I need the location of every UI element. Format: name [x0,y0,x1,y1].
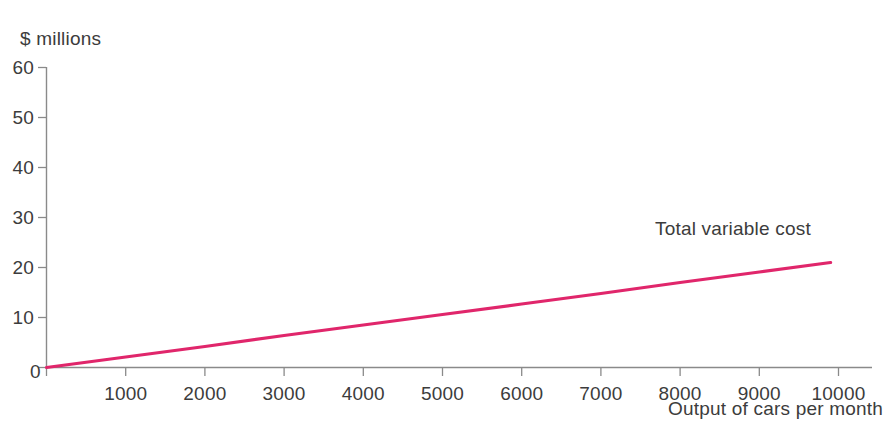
x-tick-label-1000: 1000 [86,383,166,405]
x-tick-label-7000: 7000 [561,383,641,405]
y-axis-ticks [38,68,46,368]
y-tick-label-30: 30 [0,207,34,229]
y-tick-label-40: 40 [0,157,34,179]
x-tick-label-5000: 5000 [403,383,483,405]
x-tick-label-2000: 2000 [165,383,245,405]
x-axis-ticks [47,367,839,376]
x-tick-label-3000: 3000 [244,383,324,405]
series-line-total-variable-cost [47,263,831,368]
x-axis-title: Output of cars per month [668,398,883,420]
series-annotation-total-variable-cost: Total variable cost [655,218,811,240]
y-tick-label-10: 10 [0,307,34,329]
y-tick-label-50: 50 [0,107,34,129]
x-tick-label-4000: 4000 [323,383,403,405]
x-tick-label-6000: 6000 [482,383,562,405]
origin-tick-label-0: 0 [30,361,41,383]
chart-container: $ millions [0,0,893,435]
y-tick-label-60: 60 [0,57,34,79]
y-tick-label-20: 20 [0,257,34,279]
